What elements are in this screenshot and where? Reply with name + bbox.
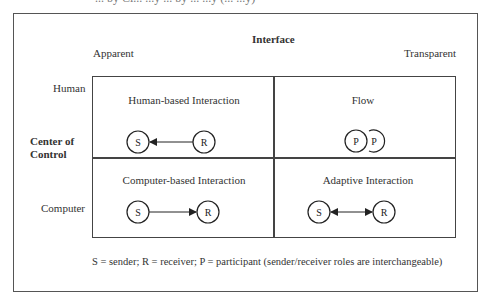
interaction-matrix: Human-based Interaction S R Flow P P Com… xyxy=(92,76,456,238)
clipped-caption: ... by Ci... ...y ... by ... ...y (... .… xyxy=(95,0,255,6)
svg-text:S: S xyxy=(135,137,141,148)
adaptive-diagram: S R xyxy=(273,157,457,239)
computer-row-label: Computer xyxy=(41,202,85,214)
center-of-control-label-line2: Control xyxy=(30,148,66,160)
human-based-diagram: S R xyxy=(93,77,273,157)
svg-text:R: R xyxy=(381,207,388,218)
legend-text: S = sender; R = receiver; P = participan… xyxy=(92,256,442,267)
interface-axis-label: Interface xyxy=(252,33,295,45)
human-row-label: Human xyxy=(53,82,85,94)
svg-text:R: R xyxy=(205,207,212,218)
svg-text:S: S xyxy=(316,207,322,218)
svg-text:R: R xyxy=(201,137,208,148)
svg-text:P: P xyxy=(371,136,377,147)
flow-diagram: P P xyxy=(273,77,457,157)
center-of-control-label-line1: Center of xyxy=(30,135,74,147)
svg-text:S: S xyxy=(135,207,141,218)
apparent-label: Apparent xyxy=(93,47,134,59)
svg-text:P: P xyxy=(353,136,359,147)
transparent-label: Transparent xyxy=(404,47,456,59)
computer-based-diagram: S R xyxy=(93,157,273,239)
